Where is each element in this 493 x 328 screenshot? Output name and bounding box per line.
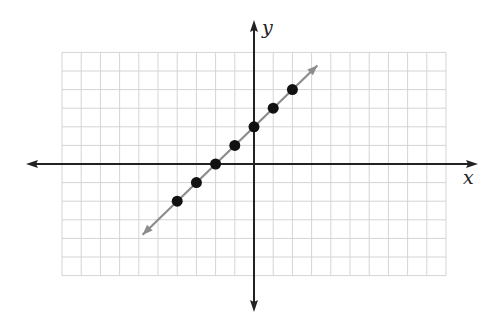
- data-point: [249, 121, 260, 132]
- x-axis-label: x: [463, 166, 474, 188]
- data-point: [287, 84, 298, 95]
- coordinate-plane: [0, 0, 493, 328]
- data-point: [268, 103, 279, 114]
- data-point: [210, 159, 221, 170]
- data-point: [229, 140, 240, 151]
- data-point: [172, 196, 183, 207]
- y-axis-label: y: [262, 16, 273, 38]
- axes: [26, 20, 478, 312]
- data-point: [191, 177, 202, 188]
